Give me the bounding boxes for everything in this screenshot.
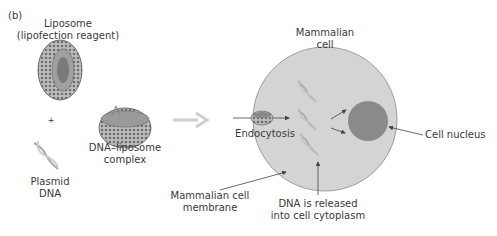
process-arrow bbox=[173, 113, 207, 127]
cell-nucleus bbox=[348, 101, 388, 141]
endocytosis-vesicle bbox=[251, 111, 273, 125]
liposome-label: Liposome (lipofection reagent) bbox=[8, 18, 128, 42]
mammalian-cell-label: Mammalian cell bbox=[295, 27, 355, 51]
dna-liposome-complex-label: DNA–liposome complex bbox=[85, 142, 165, 166]
plasmid-dna-icon bbox=[34, 141, 58, 169]
dna-released-label: DNA is released into cell cytoplasm bbox=[268, 198, 368, 222]
plasmid-dna-label: Plasmid DNA bbox=[20, 176, 80, 200]
endocytosis-label: Endocytosis bbox=[230, 128, 300, 140]
membrane-label: Mammalian cell membrane bbox=[155, 190, 265, 214]
plus-sign: + bbox=[46, 115, 56, 127]
cell-nucleus-label: Cell nucleus bbox=[425, 129, 486, 141]
liposome-illustration bbox=[38, 40, 82, 100]
